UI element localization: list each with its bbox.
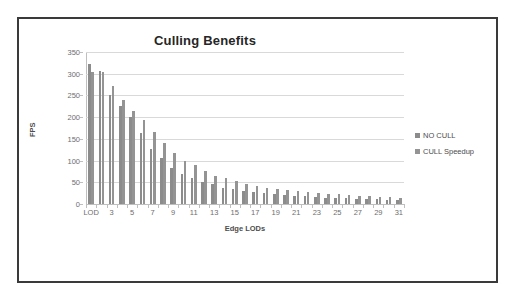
legend-label: CULL Speedup [423, 147, 474, 156]
y-axis-tick-labels: 050100150200250300350 [44, 52, 80, 204]
bar-group [365, 52, 371, 204]
bar-cull-speedup [173, 153, 176, 204]
bar-cull-speedup [317, 193, 320, 204]
bar-group [119, 52, 125, 204]
bar-cull-speedup [112, 86, 115, 204]
bar-cull-speedup [225, 178, 228, 204]
y-tick-label: 200 [50, 113, 80, 122]
bar-group [88, 52, 94, 204]
x-axis-title: Edge LODs [86, 224, 404, 233]
bar-cull-speedup [143, 120, 146, 204]
bar-cull-speedup [132, 111, 135, 204]
x-tick-label: 5 [130, 208, 134, 217]
bar-group [160, 52, 166, 204]
legend-swatch-icon [415, 149, 420, 154]
bar-cull-speedup [338, 194, 341, 204]
bar-cull-speedup [286, 190, 289, 204]
y-tick-label: 300 [50, 69, 80, 78]
x-tick-label: 13 [210, 208, 218, 217]
y-tick-label: 50 [50, 178, 80, 187]
y-tick-label: 150 [50, 134, 80, 143]
bar-cull-speedup [194, 165, 197, 204]
y-tick-mark [80, 161, 83, 162]
gridline [86, 204, 404, 205]
legend-item[interactable]: NO CULL [415, 131, 499, 140]
bar-group [191, 52, 197, 204]
bar-cull-speedup [184, 161, 187, 204]
bar-group [376, 52, 382, 204]
bar-group [181, 52, 187, 204]
bar-group [109, 52, 115, 204]
x-tick-label: 25 [333, 208, 341, 217]
bar-group [283, 52, 289, 204]
y-tick-label: 250 [50, 91, 80, 100]
bar-group [334, 52, 340, 204]
y-tick-mark [80, 182, 83, 183]
x-tick-label: 27 [354, 208, 362, 217]
bar-group [304, 52, 310, 204]
y-axis-title: FPS [28, 122, 37, 137]
bar-cull-speedup [91, 72, 94, 204]
bar-groups [86, 52, 404, 204]
bar-group [129, 52, 135, 204]
x-tick-label: 31 [395, 208, 403, 217]
bar-cull-speedup [368, 196, 371, 204]
x-tick-label: 15 [231, 208, 239, 217]
legend-item[interactable]: CULL Speedup [415, 147, 499, 156]
bar-cull-speedup [358, 196, 361, 204]
bar-cull-speedup [399, 198, 402, 205]
y-tick-label: 0 [50, 200, 80, 209]
chart-title: Culling Benefits [19, 33, 391, 48]
bar-group [201, 52, 207, 204]
y-tick-mark [80, 117, 83, 118]
y-tick-mark [80, 204, 83, 205]
bar-group [386, 52, 392, 204]
x-tick-label: LOD [83, 208, 98, 217]
bar-group [211, 52, 217, 204]
bar-chart: Culling Benefits FPS 0501001502002503003… [19, 19, 496, 281]
bar-cull-speedup [245, 184, 248, 204]
plot-area [86, 52, 404, 204]
x-tick-label: 7 [151, 208, 155, 217]
bar-cull-speedup [327, 194, 330, 204]
bar-cull-speedup [153, 132, 156, 204]
bar-group [355, 52, 361, 204]
x-tick-label: 11 [190, 208, 198, 217]
bar-group [170, 52, 176, 204]
bar-cull-speedup [389, 197, 392, 204]
y-tick-label: 100 [50, 156, 80, 165]
bar-group [263, 52, 269, 204]
bar-cull-speedup [307, 192, 310, 204]
x-tick-label: 19 [272, 208, 280, 217]
bar-group [140, 52, 146, 204]
bar-group [252, 52, 258, 204]
x-tick-label: 9 [171, 208, 175, 217]
bar-cull-speedup [348, 195, 351, 204]
bar-cull-speedup [122, 100, 125, 204]
bar-group [273, 52, 279, 204]
bar-cull-speedup [102, 72, 105, 204]
bar-cull-speedup [235, 181, 238, 204]
bar-group [150, 52, 156, 204]
x-axis-tick-labels: LOD35791113151719212325272931 [86, 208, 404, 220]
legend-swatch-icon [415, 133, 420, 138]
bar-group [396, 52, 402, 204]
y-tick-mark [80, 74, 83, 75]
legend-label: NO CULL [423, 131, 456, 140]
bar-group [232, 52, 238, 204]
bar-group [345, 52, 351, 204]
bar-group [242, 52, 248, 204]
y-tick-mark [80, 139, 83, 140]
bar-cull-speedup [297, 191, 300, 204]
bar-cull-speedup [163, 143, 166, 204]
y-tick-mark [80, 95, 83, 96]
x-tick-label: 17 [251, 208, 259, 217]
chart-legend: NO CULLCULL Speedup [415, 131, 499, 163]
x-tick-label: 3 [110, 208, 114, 217]
bar-group [99, 52, 105, 204]
chart-frame: Culling Benefits FPS 0501001502002503003… [17, 17, 498, 283]
bar-group [222, 52, 228, 204]
x-tick-label: 21 [292, 208, 300, 217]
bar-cull-speedup [256, 186, 259, 204]
bar-group [324, 52, 330, 204]
